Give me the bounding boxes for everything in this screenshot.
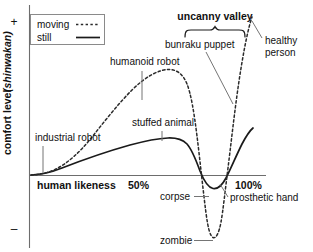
y-axis-title-italic: (shinwakan) [1,31,13,92]
y-axis-minus-sign: – [11,222,18,236]
y-axis-title: comfort level (shinwakan) [1,31,13,155]
prosthetic-hand-leader [220,184,228,197]
y-axis-title-main: comfort level [1,90,13,155]
healthy-person-leader [252,21,262,38]
uncanny-valley-brace [185,27,245,38]
annotation-industrial-robot: industrial robot [35,132,101,143]
annotation-corpse: corpse [160,191,190,202]
x-axis-title: human likeness [37,179,116,191]
uncanny-valley-figure: + – comfort level (shinwakan) moving sti… [0,0,313,252]
annotation-bunraku-puppet: bunraku puppet [165,39,235,50]
annotation-healthy-person-line2: person [265,47,296,58]
x-axis-tick-50: 50% [128,179,150,191]
annotation-humanoid-robot: humanoid robot [110,56,180,67]
legend[interactable]: moving still [31,15,105,45]
annotation-prosthetic-hand: prosthetic hand [230,192,298,203]
annotation-uncanny-valley: uncanny valley [177,10,252,22]
legend-item-label-moving: moving [37,19,69,30]
annotation-zombie: zombie [160,235,193,246]
bunraku-puppet-leader [206,52,233,104]
y-axis-plus-sign: + [10,15,17,29]
annotation-stuffed-animal: stuffed animal [132,117,194,128]
annotation-healthy-person-line1: healthy [265,35,297,46]
legend-item-label-still: still [37,32,51,43]
x-axis-tick-100: 100% [235,179,263,191]
